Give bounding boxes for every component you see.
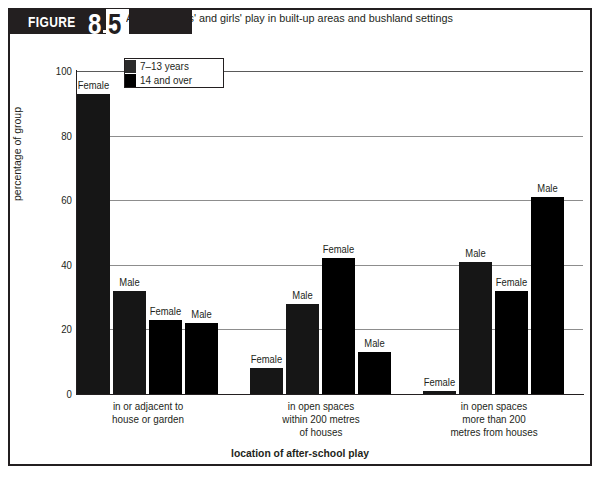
category-label-line: in open spaces xyxy=(428,400,560,413)
bar-label-g2-3: Male xyxy=(524,183,572,194)
figure-caption: Adelaide boys' and girls' play in built-… xyxy=(126,12,453,24)
y-tick-label: 100 xyxy=(46,65,72,77)
category-label-line: within 200 metres xyxy=(255,413,387,426)
bar-label-g1-2: Female xyxy=(315,244,363,255)
bar-g1-3-male xyxy=(358,352,391,394)
figure-word-label: FIGURE xyxy=(28,14,76,30)
y-tick-100: 100 xyxy=(40,65,72,77)
bar-g1-0-female xyxy=(250,368,283,394)
legend-label-old: 14 and over xyxy=(140,74,192,86)
category-label-1: in open spaceswithin 200 metresof houses xyxy=(255,400,387,439)
x-axis-title: location of after-school play xyxy=(18,447,582,459)
bar-label-g0-0: Female xyxy=(70,80,118,91)
x-axis-line xyxy=(76,394,584,395)
plot-area: FemaleMaleFemaleMaleFemaleMaleFemaleMale… xyxy=(77,71,583,394)
y-axis-title: percentage of group xyxy=(11,64,23,244)
figure-number-minor: 5 xyxy=(108,9,121,39)
bar-g2-0-female xyxy=(423,391,456,394)
bar-label-g1-0: Female xyxy=(243,354,291,365)
gridline-60 xyxy=(77,200,583,201)
y-tick-label: 0 xyxy=(46,388,72,400)
bar-label-g2-2: Female xyxy=(488,277,536,288)
bar-label-g2-1: Male xyxy=(452,248,500,259)
y-tick-40: 40 xyxy=(40,259,72,271)
bar-label-g0-1: Male xyxy=(106,277,154,288)
y-tick-0: 0 xyxy=(40,388,72,400)
category-label-line: of houses xyxy=(255,426,387,439)
bar-label-g0-3: Male xyxy=(178,309,226,320)
legend-label-young: 7–13 years xyxy=(140,60,189,72)
bar-g1-1-male xyxy=(286,304,319,394)
y-tick-label: 80 xyxy=(46,130,72,142)
bar-g2-3-male xyxy=(531,197,564,394)
y-tick-label: 20 xyxy=(46,323,72,335)
y-tick-20: 20 xyxy=(40,323,72,335)
legend-item-old: 14 and over xyxy=(125,73,195,87)
legend: 7–13 years 14 and over xyxy=(124,58,224,88)
category-label-0: in or adjacent tohouse or garden xyxy=(82,400,214,426)
category-label-line: house or garden xyxy=(82,413,214,426)
y-tick-60: 60 xyxy=(40,194,72,206)
bar-g1-2-female xyxy=(322,258,355,394)
bar-label-g2-0: Female xyxy=(416,377,464,388)
category-label-2: in open spacesmore than 200metres from h… xyxy=(428,400,560,439)
bar-g0-3-male xyxy=(185,323,218,394)
figure-number-major: 8 xyxy=(88,9,101,39)
category-label-line: metres from houses xyxy=(428,426,560,439)
y-tick-label: 40 xyxy=(46,259,72,271)
figure-root: FIGURE 8 5 Adelaide boys' and girls' pla… xyxy=(0,0,600,478)
category-label-line: in open spaces xyxy=(255,400,387,413)
bar-label-g1-1: Male xyxy=(279,290,327,301)
category-label-line: more than 200 xyxy=(428,413,560,426)
legend-swatch-young-icon xyxy=(125,60,136,73)
bar-g0-2-female xyxy=(149,320,182,394)
category-label-line: in or adjacent to xyxy=(82,400,214,413)
bar-g0-0-female xyxy=(77,94,110,394)
bar-label-g1-3: Male xyxy=(351,338,399,349)
y-tick-label: 60 xyxy=(46,194,72,206)
legend-item-young: 7–13 years xyxy=(125,59,192,73)
gridline-80 xyxy=(77,136,583,137)
legend-swatch-old-icon xyxy=(125,74,136,87)
y-tick-80: 80 xyxy=(40,130,72,142)
bar-g2-2-female xyxy=(495,291,528,394)
